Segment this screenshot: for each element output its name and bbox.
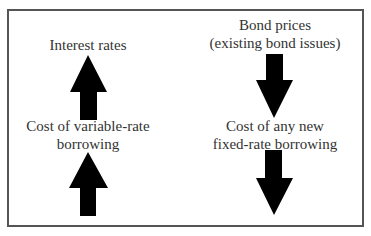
up-arrow-icon: [69, 152, 108, 216]
down-arrow-icon: [256, 150, 293, 215]
arrows-layer: [0, 0, 371, 236]
up-arrow-icon: [70, 55, 107, 120]
down-arrow-icon: [256, 54, 293, 118]
